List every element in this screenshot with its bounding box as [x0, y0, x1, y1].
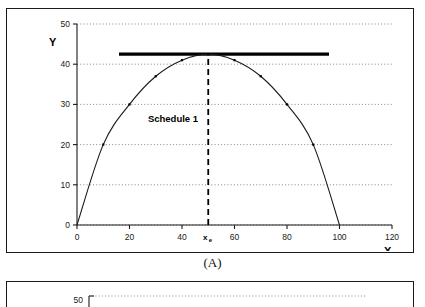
x-axis-title: X [384, 245, 392, 251]
panel-b-y-tick-label-50: 50 [74, 295, 84, 305]
x-tick-label-120: 120 [385, 232, 399, 242]
data-point-marker [286, 103, 288, 105]
data-point-marker [181, 59, 183, 61]
figure-caption-a: (A) [0, 255, 425, 271]
y-tick-label-40: 40 [61, 59, 71, 69]
xe-annotation: x [203, 233, 208, 242]
figure-page: 01020304050020406080100120YXSchedule 1xe… [0, 0, 425, 307]
data-point-marker [155, 75, 157, 77]
x-tick-label-0: 0 [75, 232, 80, 242]
y-axis-title: Y [49, 36, 57, 48]
x-tick-label-40: 40 [177, 232, 187, 242]
chart-panel-b: 50 [6, 281, 414, 307]
y-tick-label-0: 0 [65, 220, 70, 230]
data-point-marker [233, 59, 235, 61]
y-tick-label-50: 50 [61, 19, 71, 29]
x-tick-label-80: 80 [282, 232, 292, 242]
data-point-marker [207, 53, 209, 55]
y-tick-label-10: 10 [61, 180, 71, 190]
y-tick-label-20: 20 [61, 140, 71, 150]
chart-b-canvas: 50 [7, 282, 412, 307]
x-tick-label-100: 100 [332, 232, 346, 242]
data-point-marker [260, 75, 262, 77]
y-tick-label-30: 30 [61, 99, 71, 109]
x-tick-label-20: 20 [125, 232, 135, 242]
xe-annotation-subscript: e [209, 237, 213, 243]
data-point-marker [312, 144, 314, 146]
series-annotation-schedule-1: Schedule 1 [148, 113, 199, 124]
data-point-marker [128, 103, 130, 105]
data-point-marker [102, 144, 104, 146]
chart-a-canvas: 01020304050020406080100120YXSchedule 1xe [7, 9, 412, 251]
chart-panel-a: 01020304050020406080100120YXSchedule 1xe [6, 8, 414, 253]
x-tick-label-60: 60 [230, 232, 240, 242]
